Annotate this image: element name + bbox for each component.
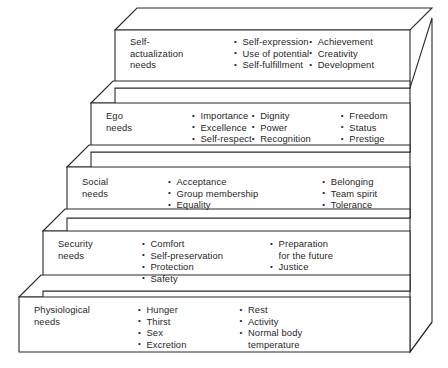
bullet-item: Rest (239, 304, 302, 316)
bullet-item: Self-preservation (142, 250, 223, 262)
tier-bullet-column: Rest Activity Normal body temperature (239, 304, 302, 350)
tier-bullet-column: Achievement Creativity Development (309, 36, 374, 71)
tier-bullet-column: Preparation for the future Justice (270, 238, 333, 273)
bullet-item: Hunger (138, 304, 186, 316)
bullet-item: Protection (142, 261, 223, 273)
tier-label-ego: Ego needs (106, 110, 162, 133)
tier-label-social: Social needs (82, 176, 138, 199)
bullet-item: Achievement (309, 36, 374, 48)
bullet-item: Use of potential (234, 48, 309, 60)
bullet-item: Excretion (138, 339, 186, 351)
tier-content-physiological: Physiological needs Hunger Thirst Sex Ex… (34, 304, 302, 350)
tier-content-social: Social needs Acceptance Group membership… (82, 176, 377, 211)
bullet-item: Prestige (341, 133, 388, 145)
bullet-item: Belonging (322, 176, 377, 188)
tier-label-self-actualization: Self- actualization needs (130, 36, 204, 71)
tier-top-face-social (67, 145, 410, 167)
bullet-item: Team spirit (322, 188, 377, 200)
tier-label-security: Security needs (58, 238, 114, 261)
tier-top-face-security (43, 209, 410, 231)
tier-bullet-column: Hunger Thirst Sex Excretion (138, 304, 186, 350)
tier-bullet-column: Comfort Self-preservation Protection Saf… (142, 238, 223, 284)
bullet-item: Self-fulfillment (234, 59, 309, 71)
bullet-item: Status (341, 122, 388, 134)
bullet-item: Acceptance (168, 176, 258, 188)
diagram-canvas: Self- actualization needs Self-expressio… (0, 0, 448, 368)
bullet-item: Importance (192, 110, 252, 122)
tier-bullet-column: Self-expression Use of potential Self-fu… (234, 36, 309, 71)
tier-bullet-column: Acceptance Group membership Equality (168, 176, 258, 211)
tier-label-physiological: Physiological needs (34, 304, 108, 327)
bullet-item: Dignity (252, 110, 311, 122)
bullet-item: Self-expression (234, 36, 309, 48)
bullet-item: Development (309, 59, 374, 71)
tier-bullet-column: Belonging Team spirit Tolerance (322, 176, 377, 211)
tier-bullet-column: Dignity Power Recognition (252, 110, 311, 145)
bullet-item: Group membership (168, 188, 258, 200)
bullet-item: Tolerance (322, 199, 377, 211)
bullet-item: Recognition (252, 133, 311, 145)
tier-content-ego: Ego needs Importance Excellence Self-res… (106, 110, 388, 145)
bullet-item: Comfort (142, 238, 223, 250)
tier-bullet-column: Importance Excellence Self-respect (192, 110, 252, 145)
bullet-item: Excellence (192, 122, 252, 134)
tier-top-face-ego (91, 81, 410, 103)
tier-top-face-self-actualization (115, 8, 432, 30)
bullet-item: Justice (270, 261, 333, 273)
bullet-item: Creativity (309, 48, 374, 60)
bullet-item: Sex (138, 327, 186, 339)
tier-content-self-actualization: Self- actualization needs Self-expressio… (130, 36, 374, 71)
bullet-item: Normal body temperature (239, 327, 302, 350)
bullet-item: Thirst (138, 316, 186, 328)
bullet-item: Self-respect (192, 133, 252, 145)
bullet-item: Activity (239, 316, 302, 328)
bullet-item: Safety (142, 273, 223, 285)
solid-right-wall (410, 18, 432, 352)
bullet-item: Freedom (341, 110, 388, 122)
bullet-item: Power (252, 122, 311, 134)
tier-bullet-column: Freedom Status Prestige (341, 110, 388, 145)
bullet-item: Preparation for the future (270, 238, 333, 261)
bullet-item: Equality (168, 199, 258, 211)
tier-content-security: Security needs Comfort Self-preservation… (58, 238, 333, 284)
